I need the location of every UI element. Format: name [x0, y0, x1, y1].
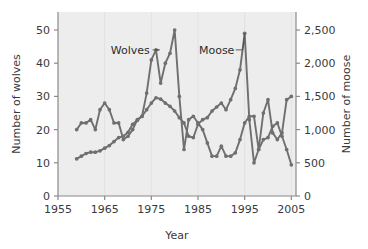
y-tick-label-right: 500 — [304, 157, 325, 170]
x-tick-label: 1955 — [44, 203, 72, 216]
y-tick-label-left: 30 — [36, 90, 50, 103]
x-axis-title: Year — [164, 229, 189, 242]
y-axis-right-title: Number of moose — [340, 55, 353, 154]
y-tick-label-left: 20 — [36, 124, 50, 137]
y-tick-label-right: 2,500 — [304, 24, 336, 37]
x-tick-label: 2005 — [277, 203, 305, 216]
x-tick-label: 1975 — [137, 203, 165, 216]
y-tick-label-left: 10 — [36, 157, 50, 170]
y-tick-label-right: 1,500 — [304, 90, 336, 103]
plot-area-background — [58, 12, 296, 196]
chart-figure: 195519651975198519952005 01020304050 050… — [0, 0, 368, 249]
y-tick-label-right: 2,000 — [304, 57, 336, 70]
series-label-wolves: Wolves — [111, 44, 150, 57]
y-tick-label-left: 50 — [36, 24, 50, 37]
y-tick-label-right: 1,000 — [304, 124, 336, 137]
y-tick-label-left: 0 — [43, 190, 50, 203]
y-tick-label-right: 0 — [304, 190, 311, 203]
series-label-moose: Moose — [199, 44, 235, 57]
x-tick-label: 1995 — [231, 203, 259, 216]
y-axis-left-title: Number of wolves — [10, 54, 23, 154]
x-tick-label: 1985 — [184, 203, 212, 216]
wolves-moose-line-chart: 195519651975198519952005 01020304050 050… — [0, 0, 368, 249]
y-tick-label-left: 40 — [36, 57, 50, 70]
x-tick-label: 1965 — [91, 203, 119, 216]
